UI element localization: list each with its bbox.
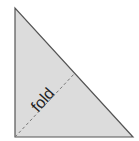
triangle-shape <box>15 8 133 137</box>
fold-diagram: fold <box>0 0 139 141</box>
